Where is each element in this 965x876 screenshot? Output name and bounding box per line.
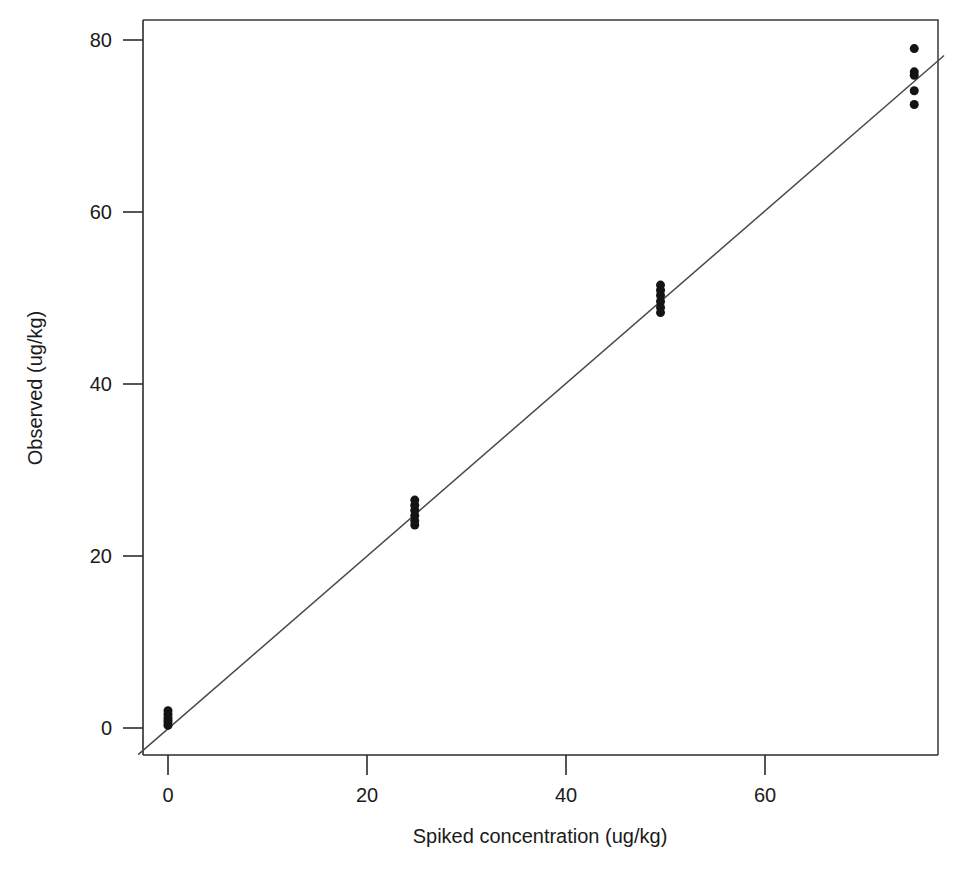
y-axis: 020406080 Observed (ug/kg) xyxy=(24,20,143,755)
x-axis-title: Spiked concentration (ug/kg) xyxy=(413,825,668,847)
x-tick-group xyxy=(168,755,765,775)
y-tick-label-group: 020406080 xyxy=(90,29,112,739)
y-tick-label-40: 40 xyxy=(90,373,112,395)
y-tick-label-80: 80 xyxy=(90,29,112,51)
x-tick-label-60: 60 xyxy=(754,784,776,806)
x-tick-label-group: 0204060 xyxy=(162,784,776,806)
fitted-regression-line xyxy=(138,55,944,754)
y-tick-group xyxy=(123,40,143,728)
y-tick-label-0: 0 xyxy=(101,717,112,739)
scatter-plot: 020406080 Observed (ug/kg) 0204060 Spike… xyxy=(0,0,965,876)
data-point xyxy=(910,100,919,109)
data-point xyxy=(910,86,919,95)
data-point xyxy=(910,44,919,53)
data-point xyxy=(164,706,173,715)
figure-container: 020406080 Observed (ug/kg) 0204060 Spike… xyxy=(0,0,965,876)
y-tick-label-60: 60 xyxy=(90,201,112,223)
x-tick-label-0: 0 xyxy=(162,784,173,806)
data-point xyxy=(656,281,665,290)
data-point xyxy=(410,496,419,505)
y-axis-title: Observed (ug/kg) xyxy=(24,311,46,466)
plot-frame xyxy=(143,20,938,755)
x-axis: 0204060 Spiked concentration (ug/kg) xyxy=(143,755,938,847)
y-tick-label-20: 20 xyxy=(90,545,112,567)
frame-top-right-spine xyxy=(143,20,938,755)
x-tick-label-20: 20 xyxy=(356,784,378,806)
fitted-line-group xyxy=(138,55,944,754)
x-tick-label-40: 40 xyxy=(555,784,577,806)
data-point-group xyxy=(164,44,919,730)
data-point xyxy=(910,67,919,76)
